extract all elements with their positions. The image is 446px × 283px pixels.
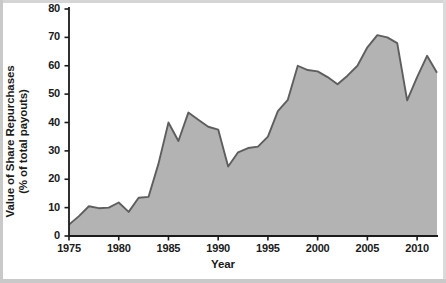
y-tick-label: 70 — [36, 30, 60, 42]
x-tick-label: 1985 — [146, 242, 190, 254]
x-tick-label: 1990 — [196, 242, 240, 254]
y-tick-label: 20 — [36, 172, 60, 184]
x-tick-label: 2010 — [395, 242, 439, 254]
x-tick-label: 2005 — [345, 242, 389, 254]
x-tick-label: 1980 — [97, 242, 141, 254]
area-chart-plot — [0, 0, 446, 283]
y-tick-label: 10 — [36, 201, 60, 213]
y-tick-label: 30 — [36, 144, 60, 156]
area-fill — [69, 35, 437, 236]
y-tick-label: 60 — [36, 59, 60, 71]
chart-figure: 01020304050607080 1975198019851990199520… — [0, 0, 446, 283]
y-tick-label: 40 — [36, 116, 60, 128]
x-tick-label: 1995 — [246, 242, 290, 254]
x-axis-title: Year — [0, 258, 446, 270]
y-tick-label: 80 — [36, 2, 60, 14]
x-tick-label: 2000 — [296, 242, 340, 254]
y-tick-label: 50 — [36, 87, 60, 99]
x-tick-label: 1975 — [47, 242, 91, 254]
y-tick-label: 0 — [36, 229, 60, 241]
